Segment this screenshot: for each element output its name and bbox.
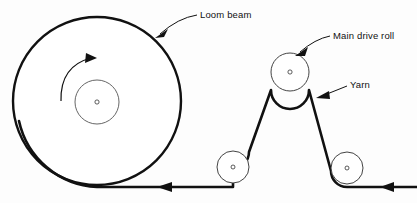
main-drive-roll-center-dot (288, 70, 292, 74)
yarn-leader-arrowhead (316, 91, 330, 99)
right-guide-roll-center-dot (345, 166, 349, 170)
loom-beam-diagram: Loom beam Main drive roll Yarn (0, 0, 417, 203)
yarn-arrow-middle (157, 182, 172, 192)
loom-beam-center-dot (95, 100, 99, 104)
main-drive-roll-leader-arrowhead (295, 47, 308, 56)
diagram-canvas: Loom beam Main drive roll Yarn (0, 0, 417, 203)
label-loom-beam: Loom beam (200, 9, 252, 20)
label-main-drive-roll: Main drive roll (333, 30, 394, 41)
yarn-arrow-right (380, 182, 394, 192)
label-yarn: Yarn (350, 79, 370, 90)
loom-beam-leader-arrowhead (155, 29, 168, 38)
left-guide-roll-center-dot (231, 165, 235, 169)
